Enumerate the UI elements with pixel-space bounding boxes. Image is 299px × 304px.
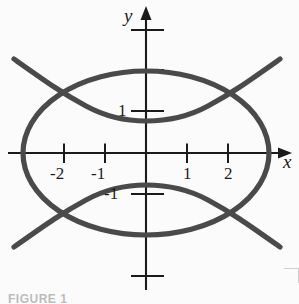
y-axis-label: y — [124, 6, 132, 25]
y-axis-arrowhead — [141, 6, 152, 20]
x-tick-label--1: -1 — [91, 165, 105, 182]
x-tick-label-1: 1 — [183, 165, 192, 182]
figure-container: y x -2 -1 1 2 1 -1 FIGURE 1 — [0, 0, 299, 304]
axes-group — [8, 6, 292, 290]
figure-caption: FIGURE 1 — [8, 292, 67, 304]
y-tick-label--1: -1 — [104, 185, 118, 202]
x-tick-label--2: -2 — [50, 165, 64, 182]
y-tick-label-1: 1 — [118, 102, 127, 119]
page-corner-mark — [284, 268, 299, 283]
x-tick-label-2: 2 — [224, 165, 233, 182]
graph-plot — [0, 0, 299, 304]
x-axis-label: x — [283, 152, 291, 171]
